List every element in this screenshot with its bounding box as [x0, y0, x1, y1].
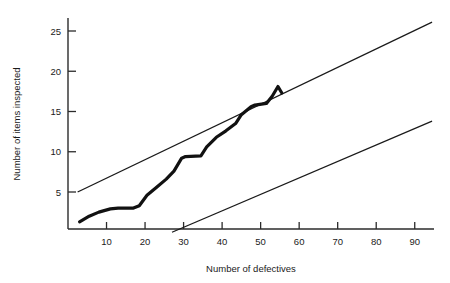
y-axis-ticks: [68, 31, 76, 192]
y-axis-tick-label: 10: [50, 146, 61, 157]
x-axis: 102030405060708090: [68, 222, 434, 247]
plot-area: [78, 22, 432, 232]
x-axis-title: Number of defectives: [206, 263, 296, 274]
y-axis-tick-label: 25: [50, 26, 61, 37]
x-axis-tick-labels: 102030405060708090: [101, 236, 420, 247]
x-axis-tick-label: 70: [332, 236, 343, 247]
x-axis-tick-label: 60: [294, 236, 305, 247]
x-axis-tick-label: 90: [409, 236, 420, 247]
x-axis-tick-label: 10: [101, 236, 112, 247]
x-axis-tick-label: 40: [217, 236, 228, 247]
x-axis-tick-label: 50: [255, 236, 266, 247]
chart-container: 510152025 102030405060708090 Number of d…: [0, 0, 450, 283]
upper-decision-line: [78, 22, 432, 192]
lower-decision-line: [172, 121, 432, 232]
y-axis-title: Number of items inspected: [11, 68, 22, 181]
x-axis-tick-label: 20: [140, 236, 151, 247]
cumulative-sample-path: [80, 87, 282, 222]
x-axis-tick-label: 80: [371, 236, 382, 247]
sequential-sampling-chart: 510152025 102030405060708090 Number of d…: [0, 0, 450, 283]
y-axis-tick-label: 15: [50, 106, 61, 117]
y-axis: 510152025: [50, 18, 76, 229]
y-axis-tick-label: 5: [56, 187, 61, 198]
y-axis-tick-labels: 510152025: [50, 26, 61, 198]
x-axis-ticks: [107, 222, 415, 229]
y-axis-tick-label: 20: [50, 66, 61, 77]
x-axis-tick-label: 30: [178, 236, 189, 247]
